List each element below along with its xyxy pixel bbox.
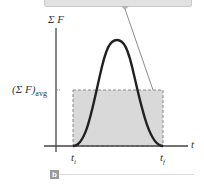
x-axis-label: t (191, 139, 194, 150)
t-final-sub: f (163, 158, 165, 166)
impulse-diagram: Σ F t (Σ F)avg ti tf b (0, 0, 204, 184)
t-initial-label: ti (71, 152, 76, 163)
average-force-rectangle (73, 90, 163, 146)
t-initial-sub: i (74, 158, 76, 166)
avg-force-label-sub: avg (35, 89, 47, 98)
panel-divider (60, 174, 194, 175)
avg-force-label: (Σ F)avg (12, 84, 47, 95)
leader-line (125, 9, 153, 90)
y-axis-label: Σ F (48, 14, 64, 25)
t-final-label: tf (160, 152, 165, 163)
avg-force-label-main: (Σ F) (12, 83, 35, 95)
panel-label: b (50, 170, 59, 179)
